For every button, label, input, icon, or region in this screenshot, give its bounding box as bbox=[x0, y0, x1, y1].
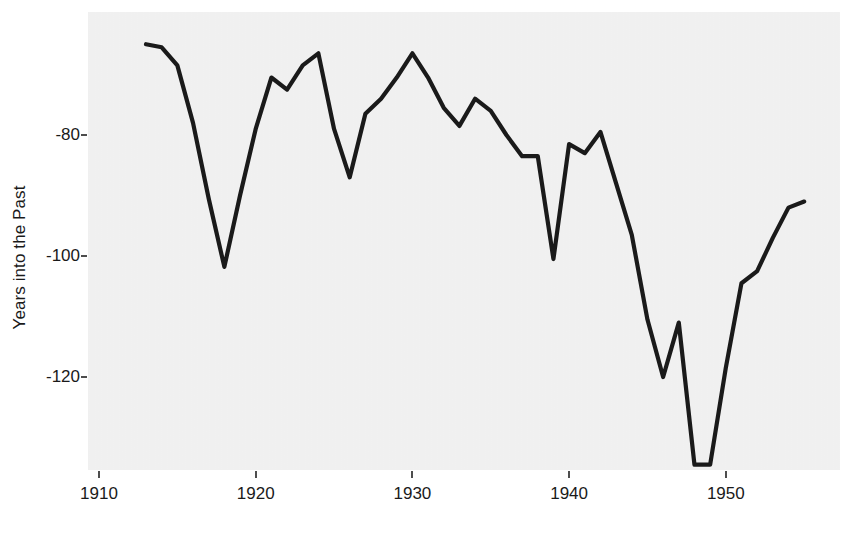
y-tick-mark bbox=[81, 134, 87, 136]
x-tick-mark bbox=[725, 471, 727, 478]
x-tick-label: 1940 bbox=[550, 484, 588, 504]
x-tick-mark bbox=[411, 471, 413, 478]
x-tick-label: 1930 bbox=[393, 484, 431, 504]
x-tick-label: 1920 bbox=[237, 484, 275, 504]
y-tick-label: -100 bbox=[22, 246, 80, 266]
data-series-line bbox=[146, 44, 804, 464]
y-tick-mark bbox=[81, 255, 87, 257]
y-tick-mark bbox=[81, 376, 87, 378]
x-tick-mark bbox=[255, 471, 257, 478]
y-tick-label: -120 bbox=[22, 367, 80, 387]
x-tick-mark bbox=[98, 471, 100, 478]
x-tick-mark bbox=[568, 471, 570, 478]
x-tick-label: 1950 bbox=[707, 484, 745, 504]
y-tick-label: -80 bbox=[22, 125, 80, 145]
x-tick-label: 1910 bbox=[80, 484, 118, 504]
plot-area bbox=[88, 12, 840, 470]
plot-panel bbox=[88, 12, 840, 470]
chart-figure: Years into the Past -80-100-120 19101920… bbox=[0, 0, 864, 535]
y-axis-tick-labels: -80-100-120 bbox=[18, 0, 80, 535]
